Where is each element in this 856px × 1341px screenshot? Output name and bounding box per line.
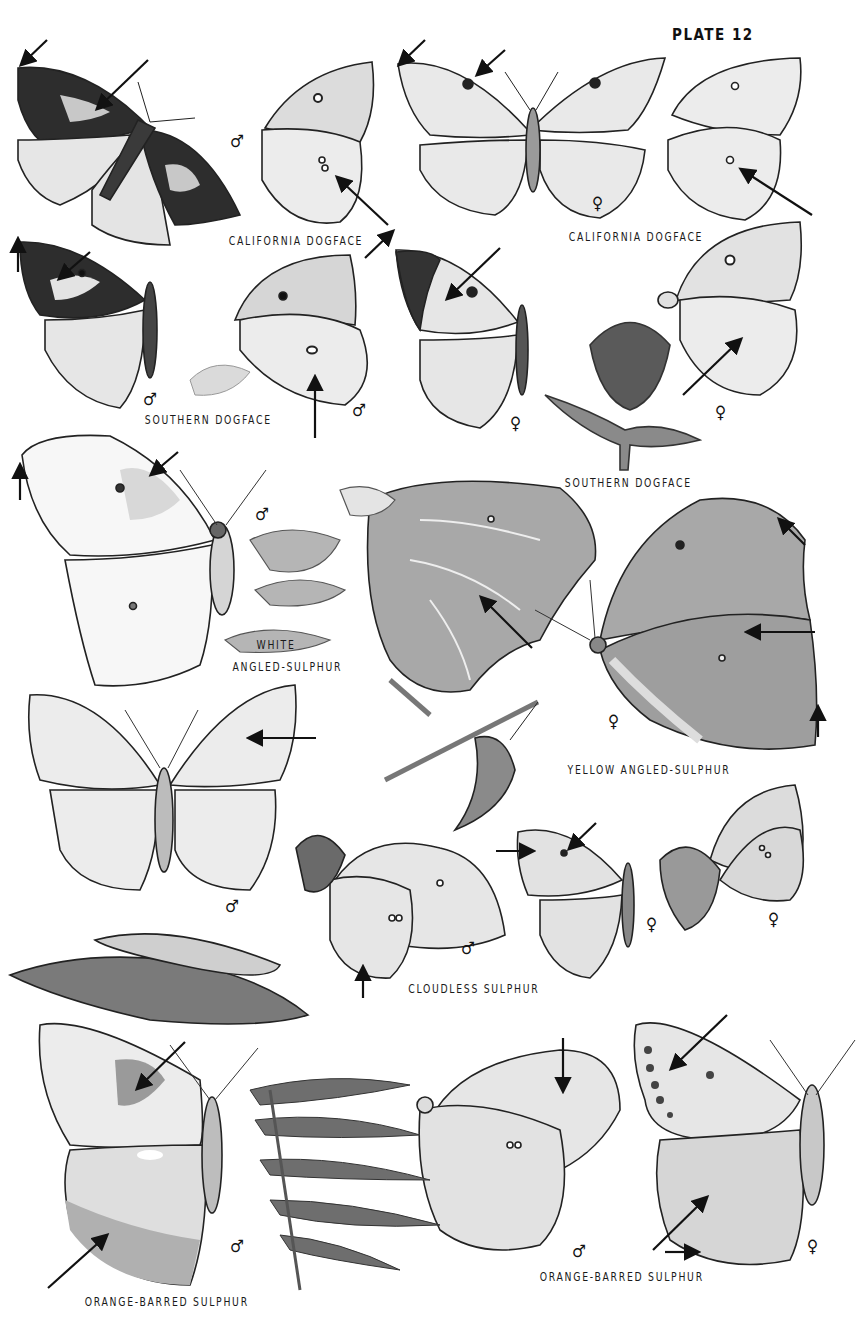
white-angled-sulphur-under-illustration [368,481,596,692]
label-orange-barred-sulphur-female: ORANGE-BARRED SULPHUR [540,1270,697,1284]
label-california-dogface-male: CALIFORNIA DOGFACE [218,234,375,248]
label-yellow-angled-sulphur: YELLOW ANGLED-SULPHUR [568,763,723,777]
southern-dogface-female-under-illustration [658,222,801,395]
california-dogface-female-upper-illustration [398,58,665,218]
male-symbol: ♂ [352,402,366,419]
label-orange-barred-sulphur-male: ORANGE-BARRED SULPHUR [85,1295,242,1309]
female-symbol: ♀ [510,415,521,432]
cloudless-sulphur-female-upper-illustration [517,830,634,978]
plate-illustrations [0,0,856,1341]
male-symbol: ♂ [143,391,157,408]
male-symbol: ♂ [255,506,269,523]
orange-barred-sulphur-male-under2-illustration [417,1050,620,1250]
orange-barred-sulphur-male-under-illustration [39,1024,222,1285]
cloudless-sulphur-male-upper-illustration [29,685,296,890]
male-symbol: ♂ [225,898,239,915]
female-symbol: ♀ [608,713,619,730]
label-southern-dogface-female: SOUTHERN DOGFACE [565,476,685,490]
label-white-angled-sulphur-line2: ANGLED-SULPHUR [232,660,335,674]
female-symbol: ♀ [715,404,726,421]
california-dogface-male-upper-illustration [18,67,240,245]
male-symbol: ♂ [230,1238,244,1255]
label-cloudless-sulphur: CLOUDLESS SULPHUR [408,982,534,996]
male-symbol: ♂ [572,1243,586,1260]
red-tubular-flowers-illustration [250,1079,440,1290]
cloudless-sulphur-female-under-illustration [660,785,803,930]
label-california-dogface-female: CALIFORNIA DOGFACE [558,230,715,244]
female-symbol: ♀ [646,916,657,933]
male-symbol: ♂ [230,133,244,150]
label-white-angled-sulphur-line1: WHITE [245,638,307,652]
female-symbol: ♀ [807,1238,818,1255]
thistle-flower-illustration [545,323,700,471]
southern-dogface-female-upper-illustration [396,250,528,428]
chrysalis-illustration [385,702,538,830]
california-dogface-male-under-illustration [262,62,374,223]
southern-dogface-male-under-illustration [190,255,367,405]
male-symbol: ♂ [461,940,475,957]
female-symbol: ♀ [768,911,779,928]
southern-dogface-male-upper-illustration [20,242,157,408]
female-symbol: ♀ [592,195,603,212]
orange-barred-sulphur-female-under-illustration [634,1023,824,1265]
white-angled-sulphur-male-upper-illustration [22,435,234,685]
caterpillar-illustration [10,934,308,1024]
label-southern-dogface-male: SOUTHERN DOGFACE [145,413,265,427]
yellow-angled-sulphur-female-under-illustration [590,498,817,749]
field-guide-plate: PLATE 12 [0,0,856,1341]
